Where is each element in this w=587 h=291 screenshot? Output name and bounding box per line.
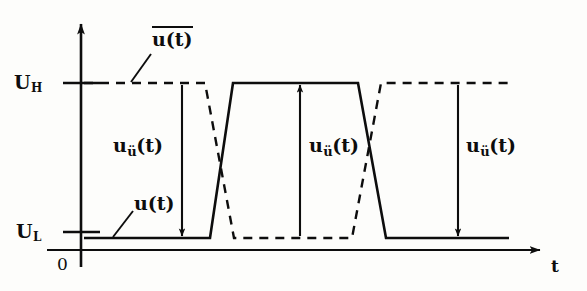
u-waveform — [84, 83, 509, 238]
signal-trace-u-bar — [84, 83, 509, 238]
annotation-label-transition-3: uü(t) — [466, 136, 516, 155]
axis-label-u-high-main: U — [14, 71, 31, 93]
u-bar-waveform — [84, 83, 509, 238]
annotation-3-sub: ü — [480, 144, 489, 159]
annotation-1-sub: ü — [127, 144, 136, 159]
signal-label-u-bar-text: u(t) — [152, 26, 193, 49]
axis-label-u-high: UH — [14, 73, 42, 92]
annotation-label-transition-2: uü(t) — [309, 136, 359, 155]
annotation-3-main: u — [466, 134, 480, 156]
axis-label-u-low-main: U — [16, 220, 33, 242]
signal-label-u-bar: u(t) — [152, 26, 193, 49]
leader-line-u-bar — [131, 54, 151, 82]
axis-label-u-low: UL — [16, 222, 41, 241]
annotation-1-tail: (t) — [136, 134, 163, 156]
annotation-label-transition-1: uü(t) — [113, 136, 163, 155]
origin-label: 0 — [57, 256, 68, 273]
x-axis-label: t — [551, 258, 559, 275]
signal-label-u: u(t) — [134, 194, 175, 213]
annotation-2-tail: (t) — [332, 134, 359, 156]
annotation-2-main: u — [309, 134, 323, 156]
signal-trace-u — [84, 83, 509, 238]
annotation-2-sub: ü — [323, 144, 332, 159]
annotation-1-main: u — [113, 134, 127, 156]
annotation-arrows — [182, 85, 458, 236]
axis-label-u-low-sub: L — [33, 230, 41, 244]
annotation-3-tail: (t) — [489, 134, 516, 156]
leader-line-u — [113, 211, 133, 237]
axis-label-u-high-sub: H — [31, 81, 42, 95]
signal-timing-diagram: UH UL 0 t u(t) u(t) uü(t) uü(t) uü(t) — [0, 0, 587, 291]
